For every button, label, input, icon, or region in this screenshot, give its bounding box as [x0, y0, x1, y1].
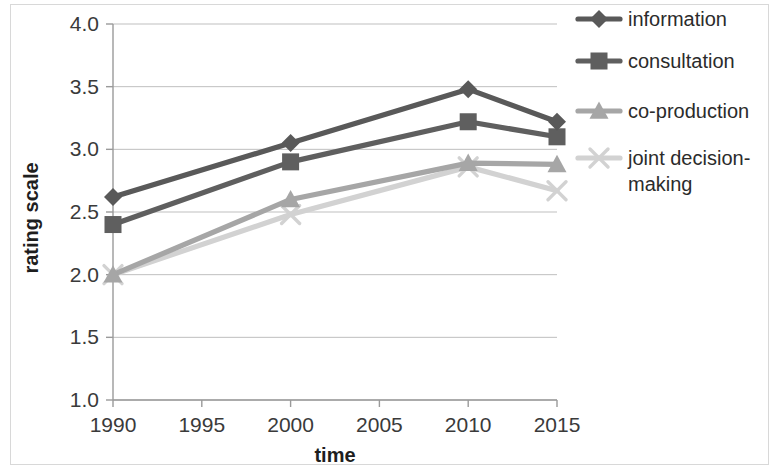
marker-diamond — [590, 10, 608, 28]
marker-square — [105, 216, 122, 233]
marker-square — [460, 113, 477, 130]
y-axis-title: rating scale — [20, 162, 42, 273]
legend-label: information — [628, 8, 727, 30]
x-tick-labels-group: 199019952000200520102015 — [90, 413, 581, 436]
x-tick-label: 2010 — [445, 413, 492, 436]
y-tick-marks-group — [106, 24, 113, 400]
marker-square — [282, 153, 299, 170]
y-tick-label: 1.0 — [70, 388, 99, 411]
y-tick-label: 2.5 — [70, 200, 99, 223]
series-information — [104, 80, 566, 206]
marker-square — [549, 128, 566, 145]
x-tick-label: 2015 — [534, 413, 581, 436]
y-tick-label: 3.5 — [70, 75, 99, 98]
legend-item-co-production[interactable]: co-production — [578, 100, 749, 122]
legend-item-information[interactable]: information — [578, 8, 727, 30]
x-tick-marks-group — [113, 400, 557, 407]
marker-square — [591, 53, 608, 70]
legend-label-continued: making — [628, 173, 692, 195]
marker-diamond — [459, 80, 477, 98]
y-tick-labels-group: 1.01.52.02.53.03.54.0 — [70, 12, 99, 411]
series-line — [113, 167, 557, 275]
series-line — [113, 89, 557, 197]
legend-item-joint-decision-making[interactable]: joint decision-making — [578, 147, 750, 195]
x-tick-label: 2000 — [267, 413, 314, 436]
x-tick-label: 1990 — [90, 413, 137, 436]
legend-label: co-production — [628, 100, 749, 122]
marker-diamond — [104, 188, 122, 206]
series-line — [113, 163, 557, 275]
marker-diamond — [548, 113, 566, 131]
x-tick-label: 1995 — [178, 413, 225, 436]
chart-figure: 1.01.52.02.53.03.54.0 199019952000200520… — [0, 0, 779, 473]
y-tick-label: 1.5 — [70, 325, 99, 348]
legend: informationconsultationco-productionjoin… — [578, 8, 750, 195]
x-tick-label: 2005 — [356, 413, 403, 436]
y-tick-label: 3.0 — [70, 137, 99, 160]
legend-label: joint decision- — [627, 147, 750, 169]
x-axis-title: time — [314, 444, 355, 466]
y-tick-label: 4.0 — [70, 12, 99, 35]
legend-label: consultation — [628, 50, 735, 72]
data-series-group — [104, 80, 567, 283]
y-tick-label: 2.0 — [70, 263, 99, 286]
legend-item-consultation[interactable]: consultation — [578, 50, 735, 72]
line-chart: 1.01.52.02.53.03.54.0 199019952000200520… — [0, 0, 779, 473]
gridlines-group — [113, 24, 557, 400]
